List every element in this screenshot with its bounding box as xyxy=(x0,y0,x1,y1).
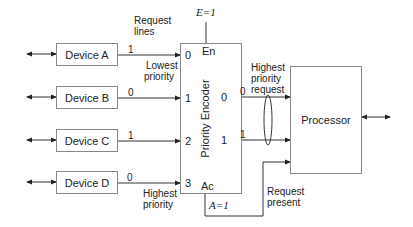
highest-priority-label-1: Highest xyxy=(143,188,177,199)
output-bus-ellipse xyxy=(264,95,272,145)
encoder-input-2: 2 xyxy=(185,136,191,147)
request-value-d: 0 xyxy=(127,172,133,183)
device-d-box: Device D xyxy=(56,171,118,194)
output-value-1: 1 xyxy=(240,129,246,140)
output-value-0: 0 xyxy=(240,86,246,97)
encoder-input-3: 3 xyxy=(185,178,191,189)
device-b-box: Device B xyxy=(56,86,118,109)
request-value-a: 1 xyxy=(128,44,134,55)
device-c-label: Device C xyxy=(65,135,110,147)
highest-priority-request-label-3: request xyxy=(251,84,284,95)
encoder-input-0: 0 xyxy=(185,50,191,61)
request-value-b: 0 xyxy=(128,87,134,98)
encoder-output-0-pin: 0 xyxy=(221,92,227,103)
lowest-priority-label-2: priority xyxy=(144,71,174,82)
processor-label: Processor xyxy=(301,114,351,126)
device-c-box: Device C xyxy=(56,129,118,152)
highest-priority-label-2: priority xyxy=(143,199,173,210)
device-d-label: Device D xyxy=(65,177,110,189)
highest-priority-request-label-2: priority xyxy=(251,73,281,84)
enable-value: E=1 xyxy=(196,7,216,18)
lowest-priority-label-1: Lowest xyxy=(146,60,178,71)
processor-box: Processor xyxy=(290,66,362,174)
active-value: A=1 xyxy=(209,200,229,211)
encoder-enable-pin: En xyxy=(202,46,215,57)
request-present-label-1: Request xyxy=(267,186,304,197)
request-value-c: 1 xyxy=(128,130,134,141)
device-b-label: Device B xyxy=(65,92,109,104)
encoder-output-1-pin: 1 xyxy=(221,135,227,146)
encoder-active-pin: Ac xyxy=(201,181,214,192)
device-a-label: Device A xyxy=(65,49,108,61)
highest-priority-request-label-1: Highest xyxy=(251,62,285,73)
request-lines-label-1: Request xyxy=(134,15,171,26)
priority-encoder-label: Priority Encoder xyxy=(199,74,212,164)
request-lines-label-2: lines xyxy=(134,26,155,37)
request-present-label-2: present xyxy=(267,197,300,208)
device-a-box: Device A xyxy=(56,43,118,66)
encoder-input-1: 1 xyxy=(185,93,191,104)
